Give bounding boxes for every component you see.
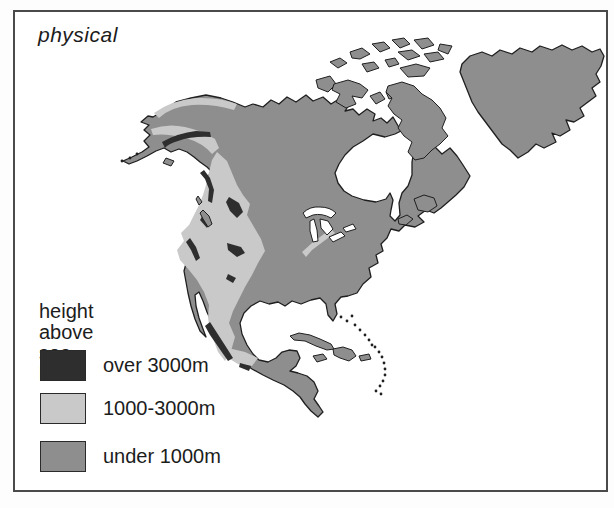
legend-label-1000-3000m: 1000-3000m: [103, 397, 215, 420]
map-title: physical: [38, 23, 118, 47]
legend-title-line1: height above: [39, 301, 94, 343]
legend-swatch-1000-3000m: [40, 393, 86, 424]
legend-swatch-over-3000m: [40, 350, 86, 381]
legend-swatch-under-1000m: [40, 441, 86, 472]
legend-label-under-1000m: under 1000m: [103, 445, 221, 468]
legend-item-1000-3000m: 1000-3000m: [40, 393, 215, 424]
legend-item-over-3000m: over 3000m: [40, 350, 209, 381]
legend-label-over-3000m: over 3000m: [103, 354, 209, 377]
physical-map-figure: physical height above sea level over 300…: [0, 0, 614, 508]
legend-item-under-1000m: under 1000m: [40, 441, 221, 472]
